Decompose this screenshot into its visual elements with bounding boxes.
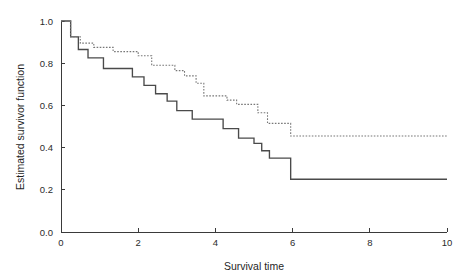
- curve-group: [61, 21, 447, 179]
- survival-curve-solid: [61, 21, 447, 179]
- survival-curve-dashed: [61, 21, 447, 136]
- y-axis-title: Estimated survivor function: [14, 64, 26, 190]
- y-tick-label: 0.4: [40, 142, 53, 153]
- x-tick-label: 10: [442, 237, 453, 248]
- x-axis-ticks: 0246810: [58, 228, 452, 248]
- y-tick-label: 0.6: [40, 100, 53, 111]
- x-tick-label: 4: [213, 237, 218, 248]
- x-axis-group: 0246810: [58, 228, 452, 248]
- y-axis-group: 0.00.20.40.60.81.0: [40, 16, 65, 238]
- x-tick-label: 2: [136, 237, 141, 248]
- x-tick-label: 6: [290, 237, 295, 248]
- y-tick-label: 0.2: [40, 184, 53, 195]
- x-tick-label: 8: [367, 237, 372, 248]
- survival-plot-figure: 0.00.20.40.60.81.0 0246810 Survival time…: [0, 0, 471, 277]
- y-tick-label: 0.8: [40, 58, 53, 69]
- x-tick-label: 0: [58, 237, 63, 248]
- y-tick-label: 1.0: [40, 16, 53, 27]
- survival-plot-canvas: 0.00.20.40.60.81.0 0246810 Survival time…: [0, 0, 471, 277]
- x-axis-title: Survival time: [224, 260, 284, 272]
- y-tick-label: 0.0: [40, 227, 53, 238]
